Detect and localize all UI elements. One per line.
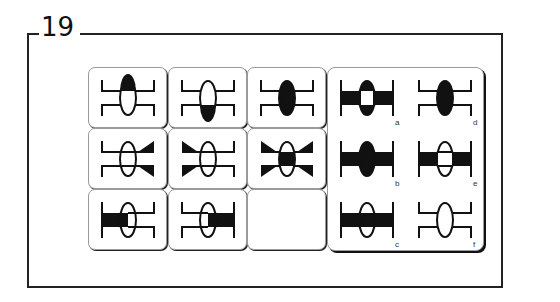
answer-option-b[interactable]: b [328,129,406,190]
matrix-cell [168,128,247,189]
answer-option-c[interactable]: c [328,190,406,251]
figure-icon [169,68,248,129]
matrix-cell [168,67,247,128]
matrix-cell [247,67,326,128]
matrix-cell [88,67,167,128]
matrix-cell [168,189,247,250]
answer-options-panel: abcdef [327,67,484,251]
figure-icon [89,68,168,129]
figure-icon [89,190,168,251]
answer-option-d[interactable]: d [406,68,484,129]
matrix-cell [88,189,167,250]
option-label: f [473,240,475,249]
answer-option-f[interactable]: f [406,190,484,251]
matrix-cell [247,128,326,189]
option-label: e [473,179,477,188]
figure-icon [89,129,168,190]
matrix-cell [88,128,167,189]
figure-icon [169,190,248,251]
option-label: d [473,118,477,127]
option-label: b [395,179,399,188]
figure-icon [248,190,327,251]
option-label: a [395,118,399,127]
figure-icon [169,129,248,190]
answer-option-a[interactable]: a [328,68,406,129]
missing-cell[interactable] [247,189,326,250]
figure-icon [248,68,327,129]
option-label: c [395,240,399,249]
figure-icon [248,129,327,190]
answer-option-e[interactable]: e [406,129,484,190]
